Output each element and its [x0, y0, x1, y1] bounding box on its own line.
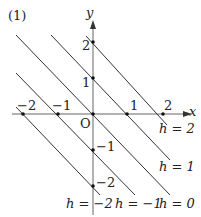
x-tick-1: 1	[130, 99, 138, 112]
y-tick-2: 2	[82, 39, 90, 52]
x-tick-2: 2	[164, 99, 172, 112]
line-label-h-0: h = 0	[159, 197, 195, 210]
point-y-2	[91, 40, 95, 44]
y-axis-arrow-icon	[90, 20, 96, 29]
point-origin	[91, 112, 95, 116]
origin-label: O	[80, 117, 91, 130]
y-tick-neg2: −2	[96, 176, 115, 189]
point-x-1	[125, 112, 129, 116]
level-lines-diagram: (1) y x O −2 −1 1 2 2 1 −1 −2 h = 2 h = …	[0, 0, 201, 217]
point-y-neg2	[91, 184, 95, 188]
line-label-h-1: h = 1	[159, 160, 195, 173]
x-tick-neg1: −1	[52, 99, 71, 112]
x-tick-neg2: −2	[17, 99, 36, 112]
part-label: (1)	[8, 9, 26, 22]
line-label-h-2: h = 2	[159, 122, 195, 135]
y-tick-1: 1	[82, 76, 90, 89]
x-axis-label: x	[189, 105, 196, 118]
line-h-2	[86, 36, 167, 125]
line-label-h-neg1: h = −1	[115, 197, 162, 210]
point-y-1	[91, 76, 95, 80]
y-tick-neg1: −1	[96, 140, 115, 153]
line-label-h-neg2: h = −2	[66, 197, 113, 210]
point-y-neg1	[91, 148, 95, 152]
line-h-neg1	[16, 73, 135, 195]
y-axis-label: y	[86, 6, 93, 19]
